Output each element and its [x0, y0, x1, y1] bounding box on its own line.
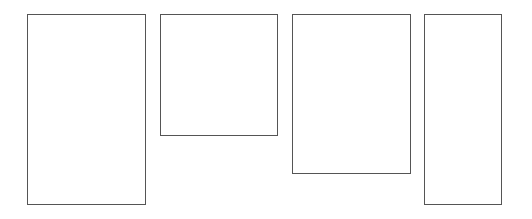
- rectangle-3: [292, 14, 411, 174]
- rectangle-4: [424, 14, 502, 205]
- rectangle-1: [27, 14, 146, 205]
- rectangle-2: [160, 14, 278, 136]
